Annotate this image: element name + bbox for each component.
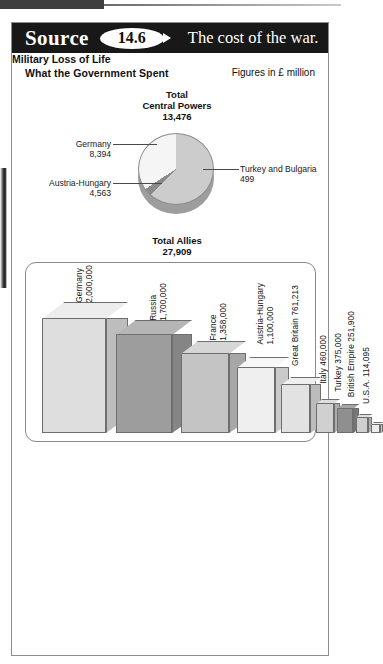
bar-label-gb-combined: Great Britain 761,213 (290, 285, 300, 366)
leader-germany (113, 144, 157, 145)
figures-unit-note: Figures in £ million (232, 67, 315, 78)
pie-allies-title: Total Allies 27,909 (97, 235, 257, 257)
section-title-government-spent: What the Government Spent (25, 67, 169, 79)
bar-label-austria-hungary: Austria-Hungary 1,100,000 (255, 283, 275, 344)
pie-central-title: Total Central Powers 13,476 (97, 89, 257, 122)
source-number: 14.6 (118, 30, 146, 46)
callout-turkey-value: 499 (240, 174, 332, 184)
card-body: What the Government Spent Figures in £ m… (12, 53, 328, 656)
bar-chart-plot-area: Germany 2,000,000 Russia 1,700,000 Franc… (26, 263, 317, 443)
bar-label-russia-value: 1,700,000 (158, 283, 168, 321)
pie-allies-title-line2: 27,909 (97, 246, 257, 257)
bar-label-turkey-combined: Turkey 375,000 (333, 333, 343, 392)
bar-usa (371, 422, 383, 433)
bar-label-turkey: Turkey 375,000 (333, 333, 343, 392)
bar-label-austria-value: 1,100,000 (265, 283, 275, 344)
callout-austria-value: 4,563 (20, 188, 111, 198)
callout-austria-hungary: Austria-Hungary 4,563 (20, 178, 111, 198)
leader-austria (113, 183, 162, 184)
source-card: Source 14.6 The cost of the war. What th… (11, 22, 329, 656)
bar-label-france-value: 1,358,000 (218, 303, 228, 341)
callout-turkey-bulgaria: Turkey and Bulgaria 499 (240, 164, 332, 184)
bar-chart-military-loss: Germany 2,000,000 Russia 1,700,000 Franc… (25, 262, 316, 442)
bar-label-great-britain: Great Britain 761,213 (290, 285, 300, 366)
leader-turkey (203, 169, 239, 170)
bar-label-russia-name: Russia (148, 283, 158, 321)
bar-label-italy: Italy 460,000 (318, 335, 328, 384)
bar-label-germany-name: Germany (74, 265, 84, 303)
scan-artifact-top-rule (104, 4, 341, 6)
bar-label-germany-value: 2,000,000 (84, 265, 94, 303)
bar-label-france-name: France (208, 303, 218, 341)
scan-artifact-gutter-shadow (0, 168, 7, 288)
callout-germany-value: 8,394 (36, 149, 111, 159)
bar-label-germany: Germany 2,000,000 (74, 265, 94, 303)
bar-label-france: France 1,358,000 (208, 303, 228, 341)
bar-label-austria-name: Austria-Hungary (255, 283, 265, 344)
bar-label-british-empire-combined: British Empire 251,900 (346, 311, 356, 397)
source-header: Source 14.6 The cost of the war. (12, 23, 328, 53)
callout-germany: Germany 8,394 (36, 139, 111, 159)
bar-label-russia: Russia 1,700,000 (148, 283, 168, 321)
bar-label-italy-combined: Italy 460,000 (318, 335, 328, 384)
callout-turkey-label: Turkey and Bulgaria (240, 164, 332, 174)
bar-british-empire (356, 414, 372, 433)
callout-germany-label: Germany (36, 139, 111, 149)
pie-central-title-line2: Central Powers (97, 100, 257, 111)
pie-central-title-line3: 13,476 (97, 111, 257, 122)
pie-allies-title-line1: Total Allies (97, 235, 257, 246)
scan-artifact-top-block (0, 0, 104, 9)
source-label: Source (25, 28, 89, 49)
pie-central-title-line1: Total (97, 89, 257, 100)
bar-label-british-empire: British Empire 251,900 (346, 311, 356, 397)
source-caption: The cost of the war. (188, 30, 319, 47)
section-title-military-loss: Military Loss of Life (12, 53, 328, 65)
bar-label-usa-combined: U.S.A. 114,095 (361, 347, 371, 404)
callout-austria-label: Austria-Hungary (20, 178, 111, 188)
source-number-badge: 14.6 (100, 28, 164, 49)
bar-label-usa: U.S.A. 114,095 (361, 347, 371, 404)
bar-great-britain (281, 377, 321, 433)
pie-chart-central-powers (138, 133, 214, 219)
